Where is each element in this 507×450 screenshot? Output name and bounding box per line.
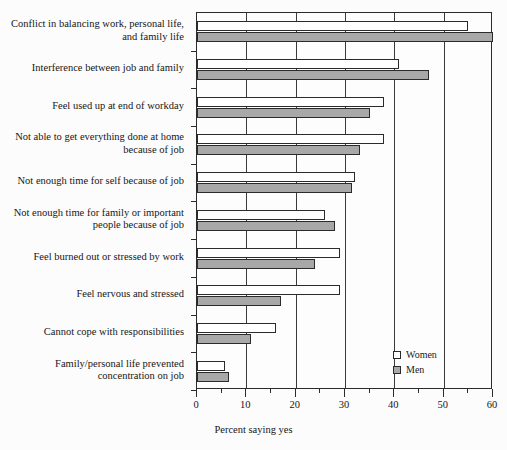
x-tick-major [245, 389, 246, 397]
bar-men [197, 70, 429, 80]
legend-label-men: Men [406, 363, 424, 376]
x-tick-label: 60 [487, 399, 498, 410]
category-label: Interference between job and family [0, 62, 184, 75]
category-label: Cannot cope with responsibilities [0, 326, 184, 339]
bar-men [197, 334, 251, 344]
bar-group [197, 277, 491, 315]
bar-women [197, 210, 325, 220]
bar-men [197, 259, 315, 269]
legend-swatch-men-icon [393, 366, 401, 374]
x-tick-major [492, 389, 493, 397]
chart-container: Conflict in balancing work, personal lif… [0, 0, 507, 450]
chart-legend: Women Men [393, 348, 437, 378]
x-tick-label: 50 [437, 399, 448, 410]
category-label: Not able to get everything done at home … [0, 131, 184, 156]
bar-men [197, 221, 335, 231]
x-axis-title: Percent saying yes [0, 424, 507, 435]
x-tick-major [196, 389, 197, 397]
bar-women [197, 248, 340, 258]
bar-group [197, 51, 491, 89]
legend-label-women: Women [406, 348, 437, 361]
x-tick-minor [418, 389, 419, 393]
category-label: Not enough time for self because of job [0, 175, 184, 188]
category-label: Conflict in balancing work, personal lif… [0, 18, 184, 43]
bar-group [197, 239, 491, 277]
legend-swatch-women-icon [393, 351, 401, 359]
plot-area [196, 12, 492, 389]
x-axis: 0102030405060 [196, 389, 492, 429]
x-tick-minor [369, 389, 370, 393]
x-tick-major [344, 389, 345, 397]
bar-men [197, 145, 360, 155]
x-tick-label: 10 [240, 399, 251, 410]
bar-women [197, 134, 384, 144]
bar-group [197, 13, 491, 51]
x-tick-major [393, 389, 394, 397]
bar-group [197, 315, 491, 353]
bar-group [197, 164, 491, 202]
bar-women [197, 323, 276, 333]
bar-men [197, 372, 229, 382]
x-tick-label: 20 [289, 399, 300, 410]
bar-men [197, 183, 352, 193]
bar-women [197, 97, 384, 107]
bar-women [197, 172, 355, 182]
x-tick-label: 30 [339, 399, 350, 410]
category-label: Not enough time for family or important … [0, 207, 184, 232]
bar-rows [197, 13, 491, 388]
category-label: Family/personal life prevented concentra… [0, 358, 184, 383]
bar-women [197, 361, 225, 371]
x-tick-major [295, 389, 296, 397]
bar-men [197, 108, 370, 118]
x-tick-minor [270, 389, 271, 393]
bar-women [197, 285, 340, 295]
x-tick-major [443, 389, 444, 397]
bar-group [197, 126, 491, 164]
bar-women [197, 21, 468, 31]
bar-women [197, 59, 399, 69]
x-tick-label: 0 [193, 399, 198, 410]
x-tick-label: 40 [388, 399, 399, 410]
category-label: Feel used up at end of workday [0, 100, 184, 113]
bar-men [197, 32, 493, 42]
x-tick-minor [319, 389, 320, 393]
bar-group [197, 202, 491, 240]
bar-men [197, 296, 281, 306]
category-label: Feel burned out or stressed by work [0, 251, 184, 264]
bar-group [197, 352, 491, 390]
category-axis-labels: Conflict in balancing work, personal lif… [0, 12, 190, 389]
bar-group [197, 88, 491, 126]
legend-item-men: Men [393, 363, 437, 376]
category-label: Feel nervous and stressed [0, 288, 184, 301]
x-tick-minor [467, 389, 468, 393]
x-tick-minor [221, 389, 222, 393]
legend-item-women: Women [393, 348, 437, 361]
